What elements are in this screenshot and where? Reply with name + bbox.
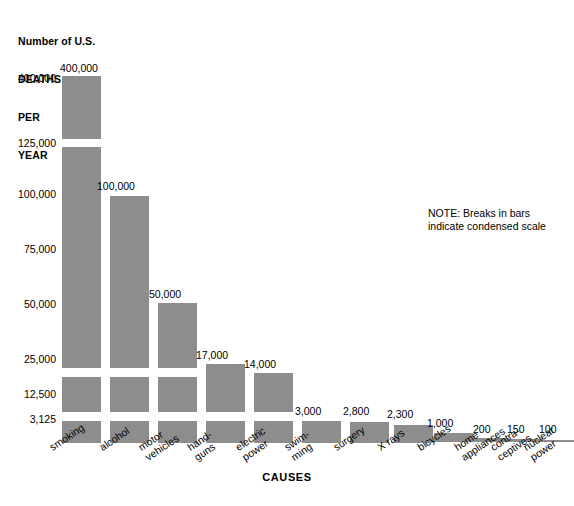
bar-nuclear-power[interactable]: 100nuclearpower — [0, 0, 574, 506]
scale-note-line-2: indicate condensed scale — [428, 220, 546, 233]
scale-note: NOTE: Breaks in bars indicate condensed … — [428, 207, 546, 233]
scale-note-line-1: NOTE: Breaks in bars — [428, 207, 546, 220]
x-axis-title: CAUSES — [0, 471, 574, 483]
chart-page: Number of U.S. DEATHS PER YEAR 400,00012… — [0, 0, 574, 506]
plot-area: 400,000smoking100,000alcohol50,000motorv… — [0, 0, 574, 506]
